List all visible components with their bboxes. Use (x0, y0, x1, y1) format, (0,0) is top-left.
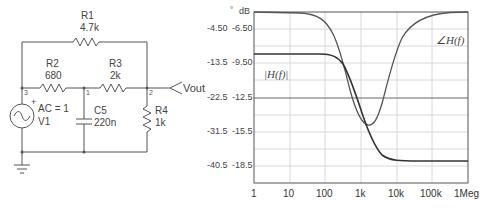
x-tick: 10k (388, 188, 404, 199)
magnitude-label: |H(f)| (264, 68, 288, 80)
x-tick: 100 (316, 188, 333, 199)
phase-tick: -31.5 (207, 126, 228, 136)
x-tick: 1 (251, 188, 257, 199)
x-tick: 100k (420, 188, 442, 199)
db-unit-label: dB (239, 6, 250, 16)
db-tick: -12.5 (232, 92, 253, 102)
phase-tick: -4.50 (207, 23, 228, 33)
db-tick: -15.5 (232, 126, 253, 136)
phase-label: ∠H(f) (436, 34, 464, 47)
x-tick: 10 (283, 188, 294, 199)
db-tick: -18.5 (232, 160, 253, 170)
db-tick: -6.50 (232, 23, 253, 33)
phase-tick: -40.5 (207, 160, 228, 170)
phase-unit-label: ° (230, 5, 233, 14)
x-tick: 1k (355, 188, 366, 199)
phase-tick: -13.5 (207, 57, 228, 67)
db-tick: -9.50 (232, 57, 253, 67)
x-tick: 1Meg (454, 188, 479, 199)
phase-tick: -22.5 (207, 92, 228, 102)
